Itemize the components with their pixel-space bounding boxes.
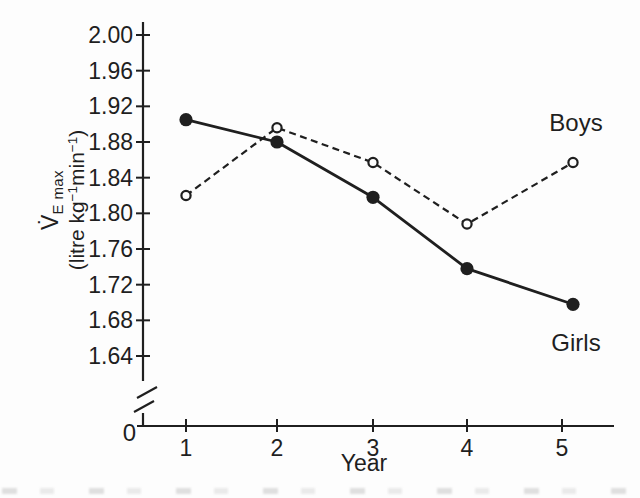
- x-tick-label: 4: [461, 435, 474, 461]
- girls-data-point: [179, 113, 192, 126]
- boys-data-point: [272, 123, 281, 132]
- chart-canvas: 2.001.961.921.881.841.801.761.721.681.64…: [0, 0, 640, 498]
- y-tick-label: 1.68: [88, 307, 133, 333]
- y-tick-label: 2.00: [88, 22, 133, 48]
- girls-data-point: [270, 135, 283, 148]
- y-tick-label: 1.72: [88, 272, 133, 298]
- y-tick-label: 1.88: [88, 129, 133, 155]
- y-tick-label: 1.76: [88, 236, 133, 262]
- girls-data-point: [366, 191, 379, 204]
- x-axis-title: Year: [341, 450, 388, 476]
- y-tick-label: 1.80: [88, 200, 133, 226]
- y-tick-label: 1.92: [88, 93, 133, 119]
- x-tick-label: 2: [271, 435, 284, 461]
- boys-data-point: [462, 219, 471, 228]
- boys-data-point: [568, 158, 577, 167]
- axis-break-slash-lower: [134, 401, 154, 412]
- y-tick-label: 1.64: [88, 343, 133, 369]
- axis-break-slash-upper: [137, 387, 157, 398]
- girls-series-line: [186, 120, 573, 305]
- boys-series-line: [186, 128, 573, 224]
- origin-label: 0: [123, 419, 136, 446]
- girls-data-point: [566, 298, 579, 311]
- y-tick-label: 1.84: [88, 165, 133, 191]
- x-tick-label: 1: [180, 435, 193, 461]
- scanned-line-chart-figure: 2.001.961.921.881.841.801.761.721.681.64…: [0, 0, 640, 498]
- girls-data-point: [460, 262, 473, 275]
- cropped-caption-remnant: [2, 488, 638, 494]
- series-label-girls: Girls: [551, 329, 600, 356]
- y-tick-label: 1.96: [88, 58, 133, 84]
- boys-data-point: [368, 158, 377, 167]
- boys-data-point: [181, 191, 190, 200]
- x-tick-label: 5: [556, 435, 569, 461]
- series-label-boys: Boys: [549, 109, 602, 136]
